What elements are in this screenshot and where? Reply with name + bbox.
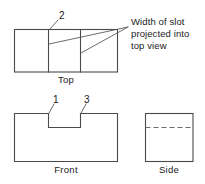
annotation-line-2: projected into [131,28,189,39]
front-view-outline [15,114,118,162]
top-view-outline [15,30,118,73]
annotation-text-block: Width of slot projected into top view [131,16,189,51]
orthographic-projection-drawing: 2 Top Width of slot projected into top v… [0,0,205,184]
callout-2-label: 2 [59,10,65,21]
callout-3-leader-line [81,104,87,114]
side-view-outline [146,114,194,162]
annotation-line-1: Width of slot [131,16,185,27]
callout-1-group: 1 [49,94,60,114]
annotation-line-3: top view [131,40,167,51]
callout-2-leader-line [50,20,58,29]
technical-drawing-figure: 2 Top Width of slot projected into top v… [0,0,205,184]
annotation-leader-to-right-edge [81,27,128,53]
callout-2-group: 2 [50,10,65,29]
front-view-group [15,114,118,162]
top-view-caption: Top [58,74,74,85]
callout-3-label: 3 [84,94,90,105]
callout-1-label: 1 [53,94,59,105]
callout-3-group: 3 [81,94,91,114]
side-view-caption: Side [159,164,179,175]
annotation-leader-group [49,27,128,53]
callout-1-leader-line [49,104,55,114]
top-view-group [15,30,118,73]
front-view-caption: Front [54,164,78,175]
side-view-group [146,114,194,162]
